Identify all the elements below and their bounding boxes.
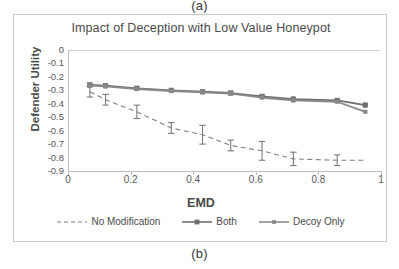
x-tick-label: 0.2 [124,175,138,185]
x-tick-mark [256,171,257,175]
data-point-marker [260,96,264,100]
series-line [90,86,365,112]
x-axis-title: EMD [14,196,388,210]
data-point-marker [201,91,205,95]
y-tick-label: 0 [36,45,64,55]
x-tick-mark [68,171,69,175]
x-tick-label: 0.4 [186,175,200,185]
legend-label: Both [216,216,237,227]
legend-item-decoy-only[interactable]: Decoy Only [259,216,345,227]
legend-swatch-icon [259,217,289,227]
x-tick-mark [381,171,382,175]
x-tick-label: 1 [378,175,384,185]
chart-title: Impact of Deception with Low Value Honey… [14,21,388,35]
legend-item-both[interactable]: Both [182,216,237,227]
chart-legend: No ModificationBothDecoy Only [14,216,388,227]
y-tick-label: -0.5 [36,112,64,122]
data-point-marker [363,103,368,108]
x-tick-mark [318,171,319,175]
figure-container: (a) Impact of Deception with Low Value H… [0,0,399,269]
data-point-marker [135,87,139,91]
y-tick-label: -0.2 [36,72,64,82]
y-tick-label: -0.7 [36,139,64,149]
series-no-modification [87,86,366,165]
x-axis-line [68,171,381,172]
series-both [88,83,368,108]
figure-caption-a: (a) [0,0,399,13]
data-point-marker [335,100,339,104]
legend-swatch-icon [182,217,212,227]
data-point-marker [292,99,296,103]
y-tick-label: -0.3 [36,86,64,96]
y-tick-label: -0.4 [36,99,64,109]
x-tick-label: 0 [65,175,71,185]
data-point-marker [88,84,92,88]
x-tick-mark [131,171,132,175]
x-tick-label: 0.8 [311,175,325,185]
legend-label: No Modification [91,216,160,227]
data-point-marker [104,85,108,89]
figure-caption-b: (b) [0,246,399,261]
legend-label: Decoy Only [293,216,345,227]
chart-panel: Impact of Deception with Low Value Honey… [13,14,387,242]
y-tick-label: -0.6 [36,126,64,136]
data-point-marker [364,110,368,114]
legend-item-no-modification[interactable]: No Modification [57,216,160,227]
data-point-marker [169,89,173,93]
y-tick-label: -0.9 [36,166,64,176]
y-tick-label: -0.8 [36,153,64,163]
data-point-marker [229,92,233,96]
x-tick-mark [193,171,194,175]
legend-swatch-icon [57,217,87,227]
series-plot [68,50,381,171]
y-tick-label: -0.1 [36,59,64,69]
plot-area: 0-0.1-0.2-0.3-0.4-0.5-0.6-0.7-0.8-0.9 00… [68,50,381,171]
x-tick-label: 0.6 [249,175,263,185]
